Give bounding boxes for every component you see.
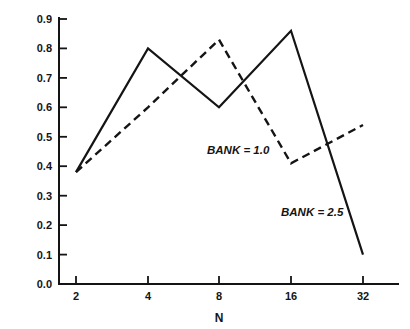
series-line-bank-2-5 <box>76 31 363 255</box>
y-tick-label-5: 0.5 <box>37 131 52 143</box>
y-axis-ticks <box>59 19 67 284</box>
y-tick-label-3: 0.3 <box>37 190 52 202</box>
chart-figure: 0.0 0.1 0.2 0.3 0.4 0.5 0.6 0.7 0.8 0.9 … <box>0 0 410 329</box>
x-tick-label-1: 4 <box>145 290 152 302</box>
y-tick-label-9: 0.9 <box>37 13 52 25</box>
x-tick-label-3: 16 <box>285 290 297 302</box>
y-tick-label-6: 0.6 <box>37 101 52 113</box>
x-tick-label-0: 2 <box>73 290 79 302</box>
y-tick-label-0: 0.0 <box>37 278 52 290</box>
x-axis-ticks <box>76 276 363 284</box>
y-tick-label-8: 0.8 <box>37 42 52 54</box>
x-tick-label-2: 8 <box>216 290 222 302</box>
annotation-bank-2-5: BANK = 2.5 <box>281 206 344 218</box>
y-tick-label-4: 0.4 <box>37 160 53 172</box>
line-chart-svg: 0.0 0.1 0.2 0.3 0.4 0.5 0.6 0.7 0.8 0.9 … <box>0 0 410 329</box>
y-tick-label-7: 0.7 <box>37 72 52 84</box>
annotation-bank-1-0: BANK = 1.0 <box>207 144 270 156</box>
x-axis-title: N <box>215 311 224 325</box>
y-axis-tick-labels: 0.0 0.1 0.2 0.3 0.4 0.5 0.6 0.7 0.8 0.9 <box>37 13 53 290</box>
x-axis-tick-labels: 2 4 8 16 32 <box>73 290 369 302</box>
y-tick-label-2: 0.2 <box>37 219 52 231</box>
x-tick-label-4: 32 <box>357 290 369 302</box>
y-tick-label-1: 0.1 <box>37 249 52 261</box>
